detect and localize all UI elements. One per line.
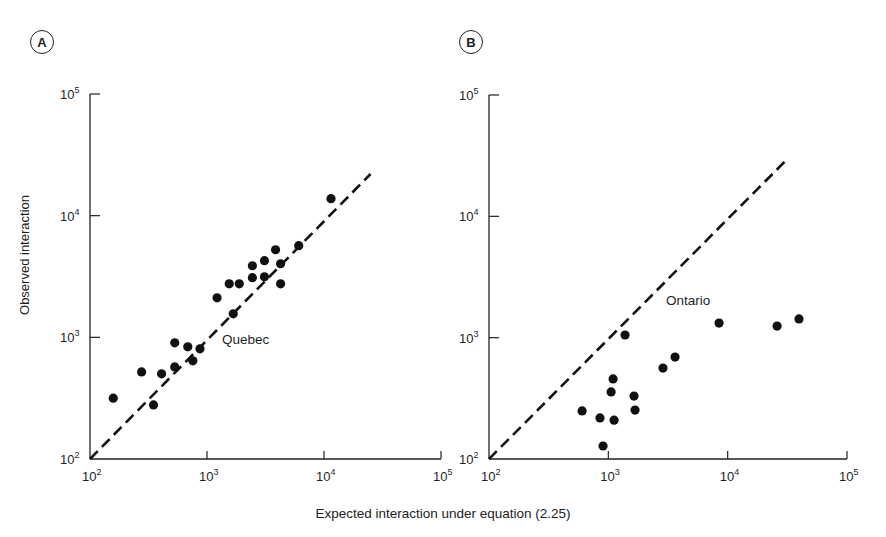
data-point [326,194,335,203]
data-point [212,293,221,302]
data-point [188,356,197,365]
data-point [195,344,204,353]
x-tick-label: 103 [199,467,218,484]
y-tick-label: 104 [459,207,478,224]
data-point [149,400,158,409]
y-tick-label: 105 [459,86,478,103]
data-point [276,279,285,288]
data-point [598,441,607,450]
x-tick-label: 104 [316,467,335,484]
x-tick-label: 102 [82,467,101,484]
data-point [714,319,723,328]
data-point [658,363,667,372]
data-point [157,369,166,378]
data-point [170,362,179,371]
y-tick-label: 102 [60,450,79,467]
data-point [629,391,638,400]
y-tick-label: 103 [60,328,79,345]
x-tick-label: 105 [433,467,452,484]
data-point [248,261,257,270]
data-point [229,309,238,318]
data-point [772,321,781,330]
data-point [670,352,679,361]
data-point [248,273,257,282]
data-point [578,406,587,415]
x-tick-label: 105 [839,467,858,484]
figure: A B 102102103103104104105105Quebec 10210… [0,0,886,537]
x-axis-label: Expected interaction under equation (2.2… [315,506,570,521]
data-point [276,259,285,268]
x-tick-label: 103 [600,467,619,484]
x-tick-label: 102 [481,467,500,484]
y-tick-label: 104 [60,207,79,224]
panel-b-scatter-plot: 102102103103104104105105Ontario [459,86,858,484]
panel-a-scatter-plot: 102102103103104104105105Quebec [60,85,452,484]
data-point [137,367,146,376]
y-tick-label: 103 [459,329,478,346]
plot-canvas: 102102103103104104105105Quebec 102102103… [0,0,886,537]
data-point [294,241,303,250]
data-point [620,330,629,339]
data-point [260,272,269,281]
region-label: Ontario [666,293,710,308]
data-point [609,416,618,425]
data-point [183,342,192,351]
region-label: Quebec [222,332,270,347]
data-point [607,387,616,396]
data-point [225,279,234,288]
data-point [595,413,604,422]
data-point [271,245,280,254]
data-point [608,374,617,383]
x-tick-label: 104 [720,467,739,484]
reference-dashed-line [489,158,788,459]
data-point [260,256,269,265]
y-tick-label: 105 [60,85,79,102]
data-point [170,338,179,347]
y-tick-label: 102 [459,450,478,467]
data-point [794,314,803,323]
data-point [235,279,244,288]
data-point [630,405,639,414]
y-axis-label: Observed interaction [17,195,32,315]
data-point [109,394,118,403]
